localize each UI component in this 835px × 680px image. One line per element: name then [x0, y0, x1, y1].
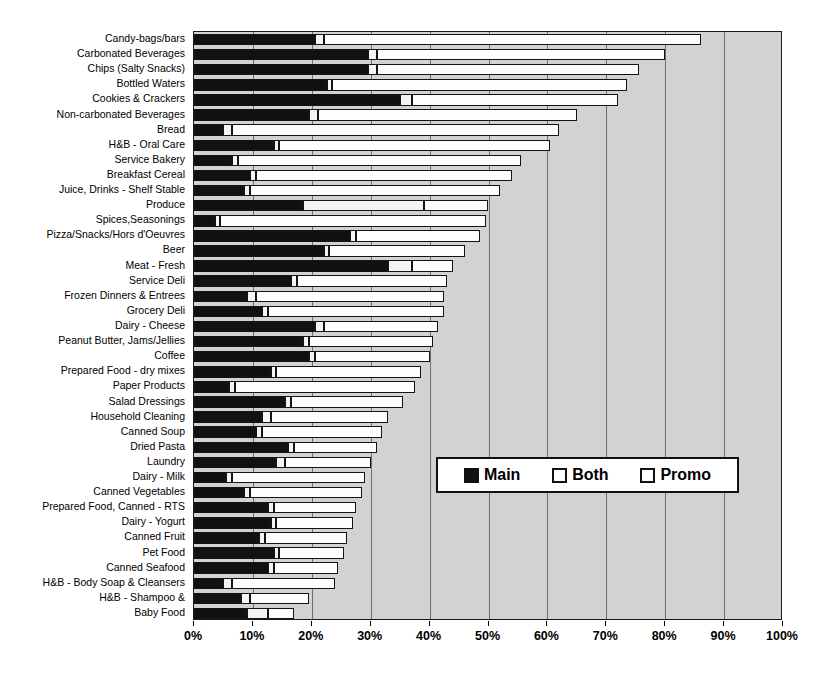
- bar-segment-promo: [268, 306, 445, 317]
- bar-row: [194, 185, 500, 196]
- bar-row: [194, 170, 512, 181]
- bar-row: [194, 49, 665, 60]
- bar-segment-both: [309, 109, 318, 120]
- category-label: Prepared Food, Canned - RTS: [0, 501, 189, 512]
- bar-segment-promo: [315, 351, 430, 362]
- bar-segment-main: [194, 49, 368, 60]
- category-label: H&B - Body Soap & Cleansers: [0, 577, 189, 588]
- axis-tick-mark: [782, 621, 783, 626]
- axis-tick-mark: [605, 621, 606, 626]
- bar-row: [194, 608, 294, 619]
- axis-tick-label: 90%: [711, 629, 736, 643]
- bar-segment-main: [194, 185, 244, 196]
- bar-row: [194, 578, 335, 589]
- bar-segment-main: [194, 34, 315, 45]
- bar-row: [194, 472, 365, 483]
- axis-tick-label: 20%: [298, 629, 323, 643]
- bar-segment-both: [315, 321, 324, 332]
- bar-segment-main: [194, 366, 271, 377]
- bar-segment-promo: [279, 547, 344, 558]
- bar-segment-promo: [324, 321, 439, 332]
- bar-row: [194, 321, 438, 332]
- bar-segment-main: [194, 170, 250, 181]
- axis-tick-mark: [429, 621, 430, 626]
- bar-row: [194, 532, 347, 543]
- outline-white-swatch: [552, 468, 567, 483]
- bar-row: [194, 457, 371, 468]
- value-axis: 0%10%20%30%40%50%60%70%80%90%100%: [193, 621, 782, 651]
- bar-series-container: [194, 32, 781, 619]
- bar-segment-both: [303, 200, 424, 211]
- bar-row: [194, 396, 403, 407]
- bar-row: [194, 502, 356, 513]
- bar-segment-main: [194, 321, 315, 332]
- bar-segment-promo: [424, 200, 489, 211]
- bar-segment-promo: [232, 472, 365, 483]
- bar-segment-promo: [324, 34, 701, 45]
- category-label: Spices,Seasonings: [0, 214, 189, 225]
- bar-segment-both: [223, 578, 232, 589]
- bar-segment-main: [194, 442, 288, 453]
- bar-segment-main: [194, 608, 247, 619]
- bar-segment-promo: [220, 215, 485, 226]
- category-label: Canned Seafood: [0, 562, 189, 573]
- bar-segment-promo: [232, 578, 335, 589]
- bar-row: [194, 200, 489, 211]
- bar-row: [194, 64, 639, 75]
- bar-segment-promo: [332, 79, 627, 90]
- category-label: Chips (Salty Snacks): [0, 63, 189, 74]
- bar-row: [194, 351, 430, 362]
- axis-tick-label: 70%: [593, 629, 618, 643]
- bar-segment-main: [194, 336, 303, 347]
- bar-segment-main: [194, 593, 241, 604]
- bar-segment-promo: [256, 291, 444, 302]
- category-label: Coffee: [0, 350, 189, 361]
- bar-row: [194, 94, 618, 105]
- bar-segment-main: [194, 411, 262, 422]
- bar-segment-main: [194, 562, 268, 573]
- bar-segment-promo: [279, 140, 550, 151]
- bar-row: [194, 381, 415, 392]
- category-label: Dairy - Yogurt: [0, 516, 189, 527]
- category-label: Laundry: [0, 456, 189, 467]
- category-label: Pet Food: [0, 547, 189, 558]
- category-label: Grocery Deli: [0, 305, 189, 316]
- bar-row: [194, 79, 627, 90]
- bar-segment-both: [247, 291, 256, 302]
- axis-tick-label: 100%: [766, 629, 798, 643]
- legend-item-both[interactable]: Both: [552, 467, 608, 483]
- axis-tick-mark: [546, 621, 547, 626]
- bar-segment-promo: [238, 155, 521, 166]
- axis-tick-label: 80%: [652, 629, 677, 643]
- bar-row: [194, 124, 559, 135]
- bar-segment-promo: [265, 532, 347, 543]
- category-label: Peanut Butter, Jams/Jellies: [0, 335, 189, 346]
- legend-item-main[interactable]: Main: [464, 467, 520, 483]
- bar-segment-main: [194, 306, 262, 317]
- bar-segment-main: [194, 502, 268, 513]
- bar-segment-promo: [235, 381, 415, 392]
- category-label: Service Bakery: [0, 154, 189, 165]
- bar-segment-main: [194, 215, 215, 226]
- bar-segment-main: [194, 426, 256, 437]
- bar-segment-main: [194, 532, 259, 543]
- category-label: Bread: [0, 124, 189, 135]
- bar-segment-promo: [297, 275, 447, 286]
- category-label: Juice, Drinks - Shelf Stable: [0, 184, 189, 195]
- bar-segment-both: [388, 260, 412, 271]
- chart-legend: MainBothPromo: [436, 457, 739, 493]
- bar-segment-main: [194, 396, 285, 407]
- axis-tick-label: 10%: [239, 629, 264, 643]
- category-label: Paper Products: [0, 380, 189, 391]
- legend-item-promo[interactable]: Promo: [640, 467, 711, 483]
- plot-area: [193, 31, 782, 620]
- category-label: Produce: [0, 199, 189, 210]
- bar-segment-main: [194, 140, 274, 151]
- bar-segment-promo: [256, 170, 512, 181]
- bar-segment-promo: [271, 411, 389, 422]
- category-label: Meat - Fresh: [0, 260, 189, 271]
- category-label: Baby Food: [0, 607, 189, 618]
- axis-tick-label: 0%: [184, 629, 202, 643]
- bar-row: [194, 336, 433, 347]
- bar-segment-both: [241, 593, 250, 604]
